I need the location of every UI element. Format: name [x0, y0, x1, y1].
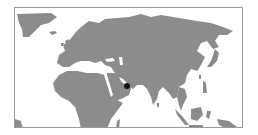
- japan: [207, 49, 219, 67]
- sri-lanka: [157, 103, 159, 107]
- madagascar: [116, 119, 120, 128]
- java: [189, 125, 203, 127]
- south-america-edge: [15, 119, 23, 128]
- map-frame: [14, 7, 243, 128]
- new-guinea: [217, 119, 237, 128]
- sulawesi: [206, 111, 211, 119]
- world-map: [15, 8, 243, 128]
- iceland: [49, 31, 57, 35]
- borneo: [191, 107, 203, 121]
- southeast-asia: [177, 87, 187, 111]
- sumatra: [175, 109, 189, 125]
- location-marker: [124, 83, 130, 89]
- philippines: [199, 75, 207, 93]
